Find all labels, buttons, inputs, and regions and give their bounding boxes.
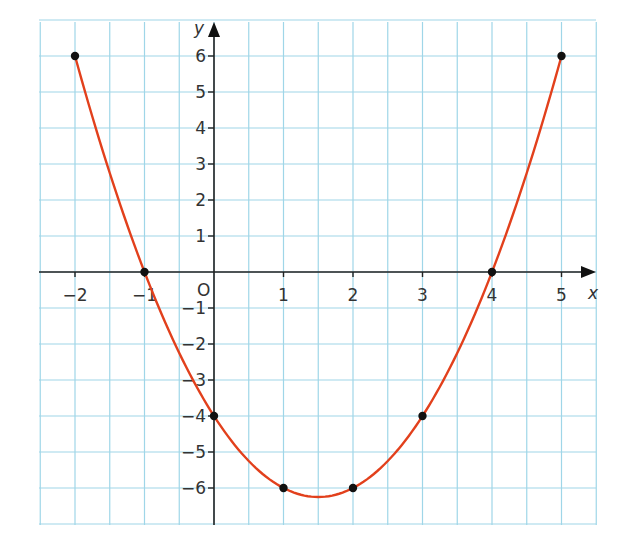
data-point	[279, 484, 287, 492]
data-point	[140, 268, 148, 276]
y-axis-arrow-icon	[208, 22, 220, 37]
y-tick-label: 3	[195, 154, 206, 174]
parabola-chart: −2−112345654321−1−2−3−4−5−6 x y O	[0, 0, 627, 552]
y-tick-label: −4	[181, 406, 206, 426]
x-tick-label: −2	[62, 285, 87, 305]
x-tick-label: 1	[278, 285, 289, 305]
x-axis-label: x	[587, 283, 599, 303]
y-tick-label: 4	[195, 118, 206, 138]
y-tick-label: −2	[181, 334, 206, 354]
y-tick-label: 2	[195, 190, 206, 210]
x-tick-label: 5	[556, 285, 567, 305]
x-tick-label: 4	[487, 285, 498, 305]
data-point	[71, 52, 79, 60]
data-point	[349, 484, 357, 492]
data-point	[418, 412, 426, 420]
x-tick-label: 3	[417, 285, 428, 305]
y-tick-label: 1	[195, 226, 206, 246]
origin-label: O	[197, 280, 210, 300]
axes	[39, 22, 596, 525]
x-axis-arrow-icon	[581, 266, 596, 278]
data-point	[210, 412, 218, 420]
y-tick-label: −1	[181, 298, 206, 318]
y-tick-label: 5	[195, 82, 206, 102]
x-tick-label: 2	[348, 285, 359, 305]
y-tick-label: 6	[195, 46, 206, 66]
data-point	[488, 268, 496, 276]
y-tick-label: −5	[181, 442, 206, 462]
data-point	[557, 52, 565, 60]
y-axis-label: y	[193, 18, 205, 38]
y-tick-label: −6	[181, 478, 206, 498]
